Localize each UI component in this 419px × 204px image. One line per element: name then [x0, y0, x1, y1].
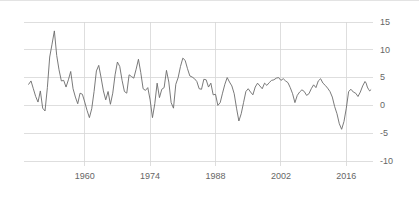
series-line — [29, 31, 371, 129]
y-tick-label: -5 — [380, 128, 388, 138]
x-axis-tick-labels: 19601974198820022016 — [75, 171, 357, 181]
x-tick-label: 2002 — [271, 171, 291, 181]
x-tick-label: 1960 — [75, 171, 95, 181]
series-group — [29, 31, 371, 129]
y-tick-label: 0 — [380, 100, 385, 110]
x-tick-label: 1988 — [206, 171, 226, 181]
line-chart: -10-5051015 19601974198820022016 — [0, 0, 419, 204]
y-tick-label: 15 — [380, 17, 390, 27]
y-tick-label: -10 — [380, 156, 393, 166]
x-tick-label: 2016 — [336, 171, 356, 181]
x-tick-label: 1974 — [140, 171, 160, 181]
chart-container: -10-5051015 19601974198820022016 — [0, 0, 419, 204]
y-gridlines — [24, 22, 373, 161]
y-tick-label: 10 — [380, 45, 390, 55]
y-tick-label: 5 — [380, 72, 385, 82]
y-axis-tick-labels: -10-5051015 — [380, 17, 393, 166]
